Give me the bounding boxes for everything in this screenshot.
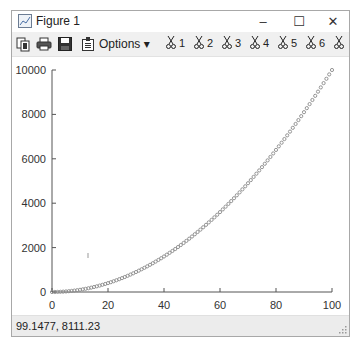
data-point <box>305 107 308 110</box>
data-point <box>241 188 244 191</box>
status-bar: 99.1477, 8111.23 <box>12 315 349 336</box>
cut-button-label: 3 <box>235 37 241 49</box>
cut-button-7[interactable] <box>334 36 344 50</box>
data-point <box>272 152 275 155</box>
y-tick-label: 10000 <box>15 64 46 76</box>
y-tick-label: 4000 <box>22 197 46 209</box>
data-point <box>221 208 224 211</box>
properties-icon[interactable] <box>80 36 96 52</box>
x-tick-label: 60 <box>214 299 226 311</box>
title-bar[interactable]: Figure 1 – ☐ ✕ <box>12 11 349 32</box>
copy-icon[interactable] <box>15 36 31 52</box>
data-point <box>199 228 202 231</box>
data-point <box>300 115 303 118</box>
figure-window: Figure 1 – ☐ ✕ Options ▾ <box>11 10 350 337</box>
data-point <box>330 68 333 71</box>
y-tick-label: 0 <box>40 286 46 298</box>
cut-button-label: 5 <box>291 37 297 49</box>
scatter-chart[interactable]: 0204060801000200040006000800010000 <box>12 57 349 317</box>
resize-grip-icon[interactable] <box>339 326 347 334</box>
cut-button-label: 1 <box>179 37 185 49</box>
data-point <box>232 197 235 200</box>
data-point <box>196 230 199 233</box>
data-point <box>218 210 221 213</box>
print-icon[interactable] <box>36 36 52 52</box>
data-point <box>294 122 297 125</box>
y-tick-label: 2000 <box>22 242 46 254</box>
maximize-button[interactable]: ☐ <box>281 11 317 32</box>
data-point <box>274 148 277 151</box>
data-point <box>269 155 272 158</box>
scissors-icon <box>166 36 176 50</box>
cut-button-4[interactable]: 4 <box>250 36 269 50</box>
toolbar: Options ▾ 1 2 3 4 5 6 <box>12 32 349 57</box>
data-point <box>322 82 325 85</box>
data-point <box>202 226 205 229</box>
data-point <box>266 159 269 162</box>
data-point <box>235 194 238 197</box>
y-tick-label: 6000 <box>22 153 46 165</box>
data-point <box>227 202 230 205</box>
data-point <box>258 169 261 172</box>
y-tick-label: 8000 <box>22 108 46 120</box>
data-point <box>286 134 289 137</box>
data-point <box>246 182 249 185</box>
options-dropdown[interactable]: Options ▾ <box>99 37 150 51</box>
data-point <box>325 77 328 80</box>
data-point <box>263 162 266 165</box>
cut-button-label: 2 <box>207 37 213 49</box>
scissors-icon <box>250 36 260 50</box>
data-point <box>319 86 322 89</box>
scissors-icon <box>306 36 316 50</box>
close-button[interactable]: ✕ <box>315 11 351 32</box>
data-point <box>252 175 255 178</box>
data-point <box>308 102 311 105</box>
save-icon[interactable] <box>57 36 73 52</box>
data-point <box>280 141 283 144</box>
x-tick-label: 100 <box>323 299 341 311</box>
data-point <box>244 185 247 188</box>
scissors-icon <box>334 36 344 50</box>
data-point <box>216 213 219 216</box>
figure-icon <box>18 14 32 28</box>
data-point <box>207 221 210 224</box>
cut-button-6[interactable]: 6 <box>306 36 325 50</box>
data-point <box>230 199 233 202</box>
data-point <box>314 94 317 97</box>
data-point <box>311 98 314 101</box>
data-point <box>260 166 263 169</box>
data-point <box>297 118 300 121</box>
x-tick-label: 80 <box>270 299 282 311</box>
data-point <box>255 172 258 175</box>
data-point <box>316 90 319 93</box>
data-point <box>210 218 213 221</box>
cut-button-3[interactable]: 3 <box>222 36 241 50</box>
data-point <box>277 145 280 148</box>
data-point <box>283 137 286 140</box>
data-point <box>213 216 216 219</box>
data-point <box>302 111 305 114</box>
x-tick-label: 0 <box>49 299 55 311</box>
cursor-coordinates: 99.1477, 8111.23 <box>16 320 100 332</box>
cut-button-5[interactable]: 5 <box>278 36 297 50</box>
scissors-icon <box>278 36 288 50</box>
cut-button-label: 4 <box>263 37 269 49</box>
data-point <box>328 73 331 76</box>
data-point <box>291 126 294 129</box>
x-tick-label: 40 <box>158 299 170 311</box>
x-tick-label: 20 <box>102 299 114 311</box>
data-point <box>204 223 207 226</box>
minimize-button[interactable]: – <box>245 11 281 32</box>
window-title: Figure 1 <box>36 14 80 28</box>
data-point <box>249 178 252 181</box>
data-point <box>224 205 227 208</box>
cut-button-label: 6 <box>319 37 325 49</box>
cut-button-2[interactable]: 2 <box>194 36 213 50</box>
plot-area[interactable]: 0204060801000200040006000800010000 <box>12 57 349 316</box>
cut-button-1[interactable]: 1 <box>166 36 185 50</box>
scissors-icon <box>222 36 232 50</box>
scissors-icon <box>194 36 204 50</box>
data-point <box>288 130 291 133</box>
data-point <box>238 191 241 194</box>
